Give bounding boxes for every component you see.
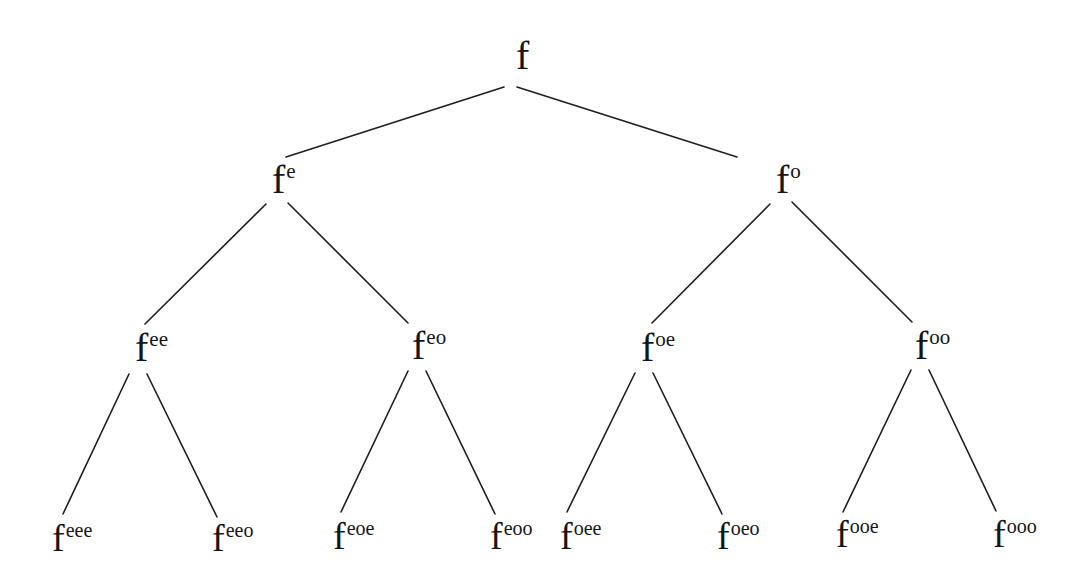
edge-o-oo [792, 202, 912, 322]
edge-e-eo [288, 203, 408, 323]
node-f: f [516, 36, 530, 76]
node-superscript: eeo [226, 519, 254, 541]
node-base-label: f [560, 515, 573, 557]
node-f-ooe: fooe [836, 515, 879, 553]
node-f-oo: foo [915, 326, 950, 366]
node-base-label: f [333, 515, 346, 557]
node-superscript: o [790, 159, 801, 183]
node-base-label: f [135, 325, 148, 370]
node-superscript: ee [149, 327, 168, 351]
edge-ee-eee [63, 374, 129, 514]
node-base-label: f [272, 157, 285, 202]
node-superscript: oeo [731, 517, 760, 539]
node-f-eoo: feoo [490, 517, 533, 555]
edge-o-oe [652, 204, 770, 323]
edge-ee-eeo [147, 374, 217, 517]
node-base-label: f [52, 517, 65, 559]
node-base-label: f [993, 513, 1006, 555]
node-superscript: oo [929, 325, 950, 349]
node-f-o: fo [776, 160, 801, 200]
node-superscript: eoe [347, 517, 375, 539]
node-f-oee: foee [560, 517, 601, 555]
node-base-label: f [776, 157, 789, 202]
node-f-oeo: foeo [717, 517, 760, 555]
edge-oe-oee [567, 373, 635, 512]
node-f-eeo: feeo [212, 519, 253, 557]
node-base-label: f [516, 33, 529, 78]
node-base-label: f [717, 515, 730, 557]
edge-oo-ooo [929, 370, 996, 511]
node-base-label: f [915, 323, 928, 368]
node-superscript: eee [66, 519, 93, 541]
node-f-ooo: fooo [993, 515, 1037, 553]
node-f-eee: feee [52, 519, 92, 557]
node-base-label: f [836, 513, 849, 555]
node-base-label: f [490, 515, 503, 557]
node-f-e: fe [272, 160, 296, 200]
node-base-label: f [412, 323, 425, 368]
node-superscript: oe [655, 327, 675, 351]
edge-eo-eoo [426, 371, 495, 514]
edge-root-o [517, 87, 737, 157]
edge-e-ee [145, 204, 266, 324]
edge-oe-oeo [653, 373, 722, 514]
node-superscript: ooe [850, 515, 879, 537]
node-superscript: eo [426, 325, 446, 349]
node-base-label: f [212, 517, 225, 559]
node-f-eoe: feoe [333, 517, 374, 555]
edge-eo-eoe [341, 371, 408, 512]
edge-oo-ooe [843, 370, 911, 512]
node-f-oe: foe [641, 328, 675, 368]
node-superscript: ooo [1007, 515, 1037, 537]
tree-edges [0, 0, 1088, 579]
node-superscript: eoo [504, 517, 533, 539]
edge-root-e [286, 87, 504, 157]
node-f-eo: feo [412, 326, 446, 366]
node-superscript: oee [574, 517, 602, 539]
node-base-label: f [641, 325, 654, 370]
node-f-ee: fee [135, 328, 168, 368]
node-superscript: e [286, 159, 295, 183]
